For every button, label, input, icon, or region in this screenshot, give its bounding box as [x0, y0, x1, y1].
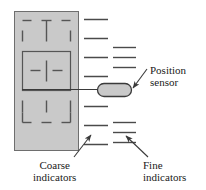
figure-container: Position sensor Coarse indicators Fine i… [0, 0, 206, 190]
fine-indicators-label-line2: indicators [143, 171, 186, 183]
fine-indicators-label-line1: Fine [143, 159, 186, 171]
sensor-leader-arrow [133, 69, 147, 88]
fine-leader-arrow [126, 136, 148, 157]
position-sensor [98, 84, 132, 97]
position-sensor-label-line1: Position [150, 64, 186, 76]
position-sensor-label: Position sensor [150, 64, 186, 88]
fine-indicators-label: Fine indicators [143, 159, 186, 183]
coarse-indicators-label: Coarse indicators [33, 159, 76, 183]
coarse-indicators-label-line2: indicators [33, 171, 76, 183]
coarse-indicator-ticks [84, 20, 108, 145]
coarse-indicators-label-line1: Coarse [33, 159, 76, 171]
position-sensor-label-line2: sensor [150, 76, 186, 88]
